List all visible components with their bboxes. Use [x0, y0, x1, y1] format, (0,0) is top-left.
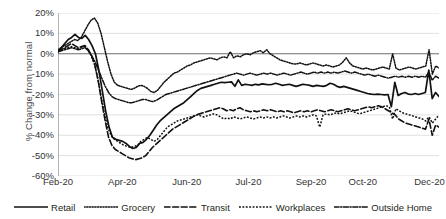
y-axis-tick-labels: 20%10%0%-10%-20%-30%-40%-50%-60% — [18, 0, 54, 185]
legend-label: Outside Home — [371, 202, 432, 213]
x-axis-tick: Dec-20 — [401, 176, 446, 187]
legend-label: Workplaces — [276, 202, 325, 213]
series-line-retail — [58, 34, 439, 148]
legend-label: Grocery — [121, 202, 155, 213]
legend-label: Transit — [201, 202, 230, 213]
y-axis-tick: -30% — [20, 110, 54, 119]
legend-item-grocery[interactable]: Grocery — [84, 202, 155, 213]
y-axis-tick: -10% — [20, 69, 54, 78]
y-axis-tick: 10% — [20, 28, 54, 37]
legend-swatch-dashed — [164, 203, 198, 211]
legend-item-retail[interactable]: Retail — [14, 202, 75, 213]
chart-legend: RetailGroceryTransitWorkplacesOutside Ho… — [0, 199, 446, 215]
x-axis-tick: Jun-20 — [159, 176, 215, 187]
series-line-transit — [58, 44, 439, 160]
legend-swatch-dotted — [84, 203, 118, 211]
legend-swatch-dashdot — [334, 203, 368, 211]
x-axis-tick: Oct-20 — [335, 176, 391, 187]
x-axis-tick: Feb-20 — [30, 176, 86, 187]
legend-item-outside-home[interactable]: Outside Home — [334, 202, 432, 213]
legend-label: Retail — [51, 202, 75, 213]
x-axis-tick: Sep-20 — [283, 176, 339, 187]
y-axis-tick: 20% — [20, 8, 54, 17]
series-line-workplaces — [58, 47, 439, 148]
legend-item-workplaces[interactable]: Workplaces — [239, 202, 325, 213]
chart-figure: % Change from normal 20%10%0%-10%-20%-30… — [0, 0, 446, 219]
legend-item-transit[interactable]: Transit — [164, 202, 230, 213]
x-axis-tick: Jul-20 — [221, 176, 277, 187]
y-axis-tick: 0% — [20, 49, 54, 58]
y-axis-tick: -20% — [20, 90, 54, 99]
legend-swatch-finedot — [239, 203, 273, 211]
chart-canvas — [58, 13, 439, 176]
y-axis-tick: -40% — [20, 130, 54, 139]
x-axis-tick: Apr-20 — [94, 176, 150, 187]
legend-swatch-solid — [14, 203, 48, 211]
series-line-grocery — [58, 18, 439, 92]
y-axis-tick: -50% — [20, 151, 54, 160]
plot-area — [58, 13, 439, 176]
